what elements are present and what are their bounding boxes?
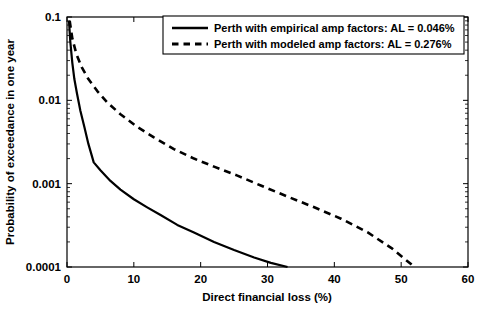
y-tick-label: 0.1 (45, 11, 62, 23)
x-tick-label: 30 (261, 273, 274, 285)
y-tick-label: 0.001 (32, 178, 61, 190)
y-axis-label: Probability of exceedance in one year (4, 39, 16, 245)
legend-label-empirical: Perth with empirical amp factors: AL = 0… (214, 22, 455, 34)
x-tick-label: 50 (395, 273, 408, 285)
chart-figure: 0102030405060 0.10.010.0010.0001 Direct … (0, 0, 481, 311)
x-tick-label: 20 (194, 273, 207, 285)
y-axis-tick-labels: 0.10.010.0010.0001 (26, 11, 62, 273)
chart-svg: 0102030405060 0.10.010.0010.0001 Direct … (0, 0, 481, 311)
x-axis-tick-labels: 0102030405060 (64, 273, 475, 285)
x-axis-label: Direct financial loss (%) (202, 291, 332, 303)
x-tick-label: 60 (462, 273, 475, 285)
y-tick-label: 0.01 (39, 94, 62, 106)
series-line-modeled (70, 21, 415, 267)
x-tick-label: 0 (64, 273, 70, 285)
legend-label-modeled: Perth with modeled amp factors: AL = 0.2… (214, 38, 452, 50)
data-series-group (69, 21, 415, 267)
x-tick-label: 40 (328, 273, 341, 285)
x-tick-label: 10 (127, 273, 140, 285)
series-line-empirical (69, 21, 288, 267)
y-tick-label: 0.0001 (26, 261, 62, 273)
chart-legend: Perth with empirical amp factors: AL = 0… (163, 16, 464, 54)
